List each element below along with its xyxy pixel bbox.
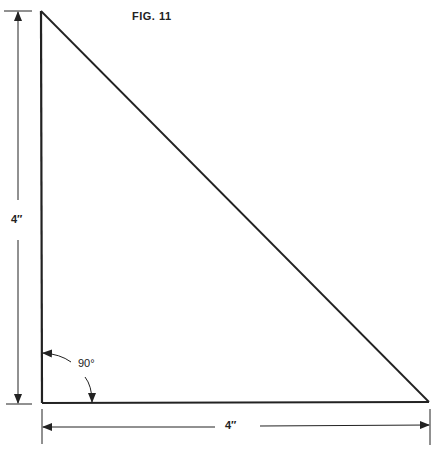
figure-title: FIG. 11 [132,10,172,22]
figure-canvas [0,0,432,449]
right-triangle [41,11,429,403]
horizontal-dimension-label: 4″ [223,419,238,431]
vertical-dimension-label: 4″ [9,213,24,225]
vertical-dimension [4,11,32,404]
angle-label: 90° [78,357,95,369]
